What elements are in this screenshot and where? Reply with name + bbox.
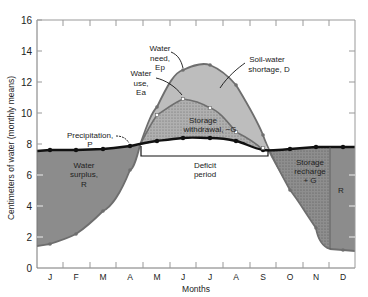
annotation-text: need, xyxy=(150,54,170,63)
month-label: S xyxy=(260,272,266,282)
month-label: F xyxy=(73,272,78,282)
month-label: J xyxy=(48,272,52,282)
annotation-text: recharge xyxy=(294,167,326,176)
month-label: N xyxy=(313,272,319,282)
y-axis-title: Centimeters of water (monthly means) xyxy=(6,76,16,220)
annotation-text: withdrawal, −G xyxy=(182,125,236,134)
annotation-text: use, xyxy=(133,79,148,88)
month-label: M xyxy=(99,272,106,282)
annotation-text: shortage, D xyxy=(248,65,290,74)
top-ticks xyxy=(63,20,329,26)
month-label: D xyxy=(340,272,346,282)
precipitation-label: Precipitation, P xyxy=(67,131,113,149)
annotation-text: R xyxy=(81,180,87,189)
x-axis-title: Months xyxy=(182,284,210,294)
y-tick-label: 16 xyxy=(21,15,33,26)
right-ticks xyxy=(349,51,355,113)
annotation-text: Ea xyxy=(136,88,146,97)
annotation-text: Soil-water xyxy=(249,55,285,64)
annotation-text: + G xyxy=(303,176,316,185)
y-tick-label: 2 xyxy=(26,232,32,243)
month-label: A xyxy=(233,272,239,282)
annotation-text: Water xyxy=(130,69,151,78)
bottom-ticks xyxy=(63,262,329,268)
annotation-text: period xyxy=(194,170,216,179)
month-labels: J F M A M J J A S O N D xyxy=(48,272,346,282)
y-tick-label: 0 xyxy=(26,263,32,274)
month-label: A xyxy=(127,272,133,282)
deficit-period-bracket xyxy=(141,146,268,156)
month-label: M xyxy=(153,272,160,282)
annotation-text: Deficit xyxy=(194,161,217,170)
month-label: J xyxy=(208,272,212,282)
y-tick-labels: 0 2 4 6 8 10 12 14 16 xyxy=(21,15,33,274)
deficit-period-label: Deficit period xyxy=(194,161,217,179)
y-tick-label: 14 xyxy=(21,46,33,57)
water-need-arrow xyxy=(171,52,183,68)
annotation-text: Water xyxy=(149,44,170,53)
water-need-label: Water need, Ep xyxy=(149,44,170,72)
y-tick-label: 8 xyxy=(26,139,32,150)
month-label: O xyxy=(287,272,294,282)
soil-water-shortage-label: Soil-water shortage, D xyxy=(248,55,290,74)
left-ticks xyxy=(37,20,42,144)
y-tick-label: 12 xyxy=(21,77,33,88)
december-surplus-area xyxy=(330,147,355,251)
annotation-text: Storage xyxy=(189,116,218,125)
december-surplus-label: R xyxy=(338,186,344,195)
month-label: J xyxy=(181,272,185,282)
annotation-text: surplus, xyxy=(70,170,98,179)
y-tick-label: 10 xyxy=(21,108,33,119)
annotation-text: Precipitation, xyxy=(67,131,113,140)
precipitation-arrow xyxy=(116,136,129,143)
annotation-text: Ep xyxy=(155,63,165,72)
water-budget-chart: 0 2 4 6 8 10 12 14 16 J F M A M J J A S … xyxy=(0,0,368,297)
y-tick-label: 6 xyxy=(26,170,32,181)
annotation-text: P xyxy=(87,140,92,149)
annotation-text: Storage xyxy=(296,158,325,167)
water-use-label: Water use, Ea xyxy=(130,69,151,97)
annotation-text: Water xyxy=(73,161,94,170)
y-tick-label: 4 xyxy=(26,201,32,212)
